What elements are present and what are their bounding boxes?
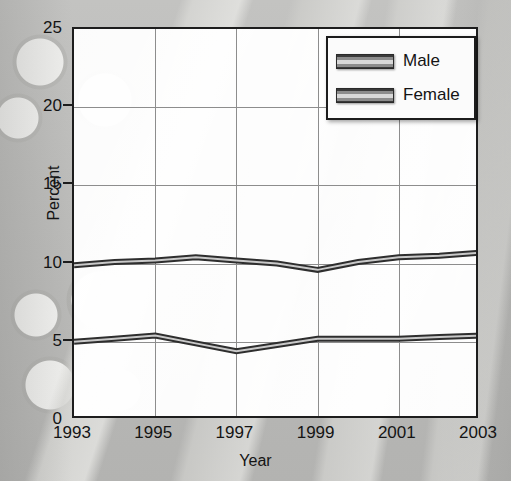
x-axis-title: Year [0, 452, 511, 470]
line-chart-figure: 0510152025 199319951997199920012003 Perc… [0, 0, 511, 481]
x-tick-label: 1993 [32, 424, 112, 441]
y-tick-label: 5 [28, 332, 62, 349]
legend-item-female[interactable]: Female [336, 85, 466, 105]
x-tick-label: 2001 [357, 424, 437, 441]
x-tick-label: 2003 [438, 424, 511, 441]
y-axis-title: Percent [45, 133, 63, 253]
x-tick-label: 1997 [194, 424, 274, 441]
y-tick-mark [63, 261, 72, 263]
legend-label-male: Male [403, 51, 440, 71]
y-tick-mark [63, 182, 72, 184]
y-tick-label: 20 [28, 97, 62, 114]
y-tick-mark [63, 339, 72, 341]
chart-legend: Male Female [326, 36, 476, 120]
legend-item-male[interactable]: Male [336, 51, 466, 71]
legend-label-female: Female [403, 85, 460, 105]
y-tick-mark [63, 104, 72, 106]
y-tick-label: 25 [28, 19, 62, 36]
legend-swatch-female-icon [336, 88, 394, 103]
x-tick-label: 1999 [276, 424, 356, 441]
x-tick-label: 1995 [113, 424, 193, 441]
legend-swatch-male-icon [336, 54, 394, 69]
y-tick-label: 10 [28, 254, 62, 271]
